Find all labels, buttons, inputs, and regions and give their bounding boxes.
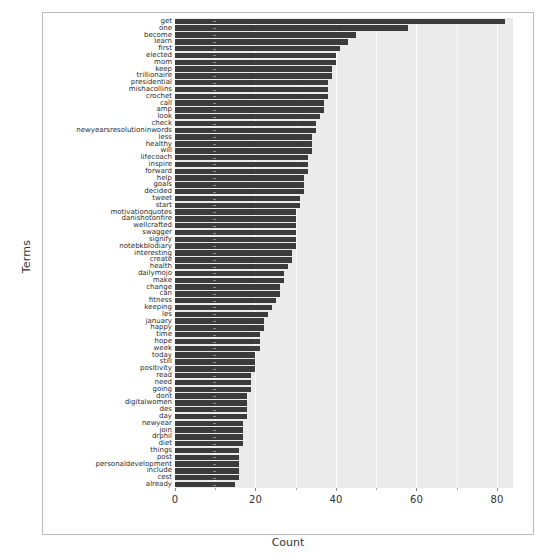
bar (175, 271, 284, 276)
y-tick-mark (213, 83, 216, 84)
x-tick-mark-minor (296, 488, 297, 490)
y-tick-mark (213, 348, 216, 349)
y-tick-mark (213, 403, 216, 404)
bar-chart: Terms getonebecomelearnfirstelectedmomke… (0, 0, 543, 559)
y-tick-mark (213, 294, 216, 295)
bar (175, 94, 328, 99)
bar (175, 107, 324, 112)
bar (175, 325, 264, 330)
y-tick-mark (213, 416, 216, 417)
bar (175, 87, 328, 92)
bar (175, 284, 280, 289)
bar (175, 312, 268, 317)
bar (175, 264, 288, 269)
x-tick-mark-minor (215, 488, 216, 490)
y-tick-mark (213, 307, 216, 308)
y-tick-mark (213, 342, 216, 343)
bar (175, 203, 300, 208)
y-tick-mark (213, 410, 216, 411)
y-tick-mark (213, 212, 216, 213)
y-tick-mark (213, 253, 216, 254)
bar (175, 421, 243, 426)
y-tick-mark (213, 328, 216, 329)
bar (175, 121, 316, 126)
y-tick-label: already (42, 481, 172, 488)
y-tick-mark (213, 260, 216, 261)
y-tick-mark (213, 151, 216, 152)
bar (175, 237, 296, 242)
bar (175, 100, 324, 105)
bar (175, 278, 284, 283)
bar (175, 468, 239, 473)
y-tick-mark (213, 49, 216, 50)
bar (175, 400, 247, 405)
y-tick-mark (213, 144, 216, 145)
y-tick-mark (213, 396, 216, 397)
y-tick-mark (213, 267, 216, 268)
bar (175, 73, 332, 78)
bar (175, 414, 247, 419)
y-tick-mark (213, 205, 216, 206)
bar (175, 339, 260, 344)
x-tick-label: 0 (172, 494, 178, 505)
y-tick-mark (213, 369, 216, 370)
y-tick-mark (213, 423, 216, 424)
bar (175, 393, 247, 398)
bar (175, 162, 308, 167)
y-tick-mark (213, 219, 216, 220)
y-tick-mark (213, 178, 216, 179)
y-tick-mark (213, 76, 216, 77)
y-tick-mark (213, 471, 216, 472)
x-axis-ticks: 020406080 (175, 488, 513, 518)
y-tick-mark (213, 164, 216, 165)
bar (175, 32, 356, 37)
bar (175, 455, 239, 460)
bar (175, 46, 340, 51)
x-tick-label: 60 (410, 494, 423, 505)
y-axis-title: Terms (20, 227, 33, 287)
y-tick-mark (213, 437, 216, 438)
x-axis-title: Count (42, 536, 534, 549)
y-tick-mark (213, 430, 216, 431)
y-tick-mark (213, 321, 216, 322)
y-tick-mark (213, 158, 216, 159)
x-tick-label: 80 (491, 494, 504, 505)
y-tick-mark (213, 457, 216, 458)
x-tick-mark (336, 488, 337, 491)
y-tick-mark (213, 35, 216, 36)
bar (175, 141, 312, 146)
bar (175, 148, 312, 153)
y-tick-mark (213, 55, 216, 56)
y-tick-mark (213, 239, 216, 240)
y-tick-mark (213, 96, 216, 97)
y-tick-mark (213, 69, 216, 70)
y-tick-mark (213, 28, 216, 29)
bar (175, 216, 296, 221)
bar (175, 155, 308, 160)
y-tick-mark (213, 21, 216, 22)
y-tick-mark (213, 90, 216, 91)
bar (175, 39, 348, 44)
bar (175, 182, 304, 187)
y-tick-mark (213, 362, 216, 363)
bar (175, 189, 304, 194)
y-tick-mark (213, 478, 216, 479)
y-tick-mark (213, 280, 216, 281)
bar-series (175, 18, 513, 488)
bar (175, 19, 505, 24)
y-tick-mark (213, 273, 216, 274)
y-tick-mark (213, 301, 216, 302)
y-tick-mark (213, 444, 216, 445)
bar (175, 196, 300, 201)
bar (175, 209, 296, 214)
y-tick-mark (213, 42, 216, 43)
y-tick-mark (213, 110, 216, 111)
y-tick-mark (213, 185, 216, 186)
y-tick-mark (213, 171, 216, 172)
y-tick-mark (213, 130, 216, 131)
x-tick-mark (175, 488, 176, 491)
y-tick-mark (213, 226, 216, 227)
bar (175, 134, 312, 139)
bar (175, 114, 320, 119)
bar (175, 66, 332, 71)
